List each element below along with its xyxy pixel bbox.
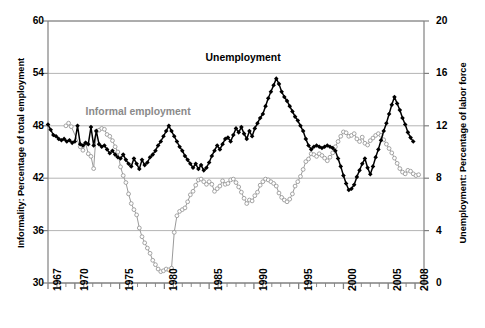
data-point — [231, 177, 235, 181]
data-point — [376, 147, 381, 152]
data-point — [148, 251, 152, 255]
x-tick-2005: 2005 — [393, 268, 403, 291]
data-point — [129, 202, 133, 206]
data-point — [89, 154, 93, 158]
data-point — [277, 191, 281, 195]
x-tick-2008: 2008 — [420, 268, 430, 291]
data-point — [188, 193, 192, 197]
data-point — [151, 258, 155, 262]
data-point — [390, 151, 394, 155]
data-point — [398, 167, 402, 171]
x-tick-2000: 2000 — [348, 268, 358, 291]
data-point — [137, 226, 141, 230]
x-tick-1995: 1995 — [304, 268, 314, 291]
x-tick-1970: 1970 — [80, 268, 90, 291]
data-point — [371, 164, 376, 169]
data-point — [341, 173, 346, 178]
data-point — [119, 165, 123, 169]
data-point — [186, 200, 190, 204]
data-point — [140, 235, 144, 239]
y-tick-right-8: 8 — [436, 173, 462, 183]
data-point — [194, 183, 198, 187]
data-point — [210, 182, 214, 186]
data-point — [296, 180, 300, 184]
data-point — [352, 132, 356, 136]
data-point — [111, 139, 115, 143]
data-point — [387, 147, 391, 151]
data-point — [245, 202, 249, 206]
data-point — [336, 140, 340, 144]
data-point — [373, 155, 378, 160]
data-point — [263, 104, 268, 109]
data-point — [274, 184, 278, 188]
series-line — [48, 79, 413, 190]
plot-area — [0, 0, 485, 328]
y-tick-right-20: 20 — [436, 16, 462, 26]
data-point — [301, 168, 305, 172]
data-point — [221, 179, 225, 183]
x-tick-1967: 1967 — [53, 268, 63, 291]
y-tick-right-4: 4 — [436, 226, 462, 236]
data-point — [336, 156, 341, 161]
data-point — [218, 184, 222, 188]
y-tick-left-30: 30 — [18, 278, 44, 288]
data-point — [253, 194, 257, 198]
data-point — [250, 199, 254, 203]
data-point — [389, 103, 394, 108]
data-point — [393, 156, 397, 160]
data-point — [344, 131, 348, 135]
data-point — [357, 168, 362, 173]
x-tick-1990: 1990 — [259, 268, 269, 291]
data-point — [124, 181, 128, 185]
y-tick-right-16: 16 — [436, 68, 462, 78]
data-point — [293, 184, 297, 188]
x-tick-1980: 1980 — [169, 268, 179, 291]
data-point — [269, 89, 274, 94]
data-point — [234, 181, 238, 185]
data-point — [328, 155, 332, 159]
data-point — [231, 133, 236, 138]
y-tick-left-60: 60 — [18, 16, 44, 26]
data-point — [116, 150, 120, 154]
data-point — [172, 230, 176, 234]
data-point — [183, 206, 187, 210]
data-point — [384, 121, 389, 126]
data-point — [81, 148, 85, 152]
y-tick-right-12: 12 — [436, 121, 462, 131]
data-point — [175, 214, 179, 218]
figure-caption — [48, 319, 428, 328]
data-point — [145, 246, 149, 250]
data-point — [417, 173, 421, 177]
y-tick-right-0: 0 — [436, 278, 462, 288]
data-point — [113, 145, 117, 149]
data-point — [344, 181, 349, 186]
data-point — [403, 172, 407, 176]
data-point — [368, 172, 373, 177]
data-point — [392, 95, 397, 100]
data-point — [67, 121, 71, 125]
data-point — [366, 143, 370, 147]
data-point — [385, 142, 389, 146]
data-point — [143, 241, 147, 245]
data-point — [387, 112, 392, 117]
data-point — [365, 165, 370, 170]
data-point — [256, 190, 260, 194]
data-point — [242, 196, 246, 200]
data-point — [103, 127, 107, 131]
data-point — [121, 174, 125, 178]
data-point — [266, 96, 271, 101]
data-point — [108, 134, 112, 138]
data-point — [398, 108, 403, 113]
data-point — [299, 175, 303, 179]
data-point — [135, 213, 139, 217]
y-tick-left-36: 36 — [18, 226, 44, 236]
data-point — [239, 190, 243, 194]
data-point — [304, 137, 309, 142]
data-point — [226, 182, 230, 186]
data-point — [358, 140, 362, 144]
data-point — [339, 134, 343, 138]
y-tick-left-48: 48 — [18, 121, 44, 131]
data-point — [338, 164, 343, 169]
series-label-unemployment: Unemployment — [206, 52, 281, 63]
data-point — [271, 83, 276, 88]
